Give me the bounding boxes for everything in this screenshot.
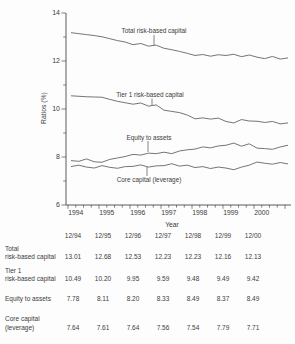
row-label-line: (leverage) — [5, 324, 58, 333]
cell-value: 12.23 — [178, 253, 208, 262]
series-annotation-label: Total risk-based capital — [121, 27, 186, 35]
cell-value: 7.64 — [58, 324, 88, 333]
series-annotation-label: Core capital (leverage) — [117, 176, 182, 184]
series-line — [71, 96, 288, 124]
x-tick-label: 1998 — [192, 209, 207, 216]
row-label: Core capital(leverage) — [5, 315, 58, 332]
cell-value: 10.49 — [58, 275, 88, 284]
y-tick-label: 14 — [52, 9, 60, 16]
cell-value: 12.23 — [148, 253, 178, 262]
row-label: Totalrisk-based capital — [5, 245, 58, 262]
cell-value: 8.49 — [238, 295, 268, 304]
cell-value: 10.20 — [88, 275, 118, 284]
table-row: Totalrisk-based capital13.0112.6812.5312… — [5, 245, 283, 262]
cell-value: 12.16 — [208, 253, 238, 262]
row-label: Tier 1risk-based capital — [5, 267, 58, 284]
table-header-row: 12/9412/9512/9612/9712/9812/9912/00 — [5, 232, 283, 241]
table-col-header: 12/00 — [238, 232, 268, 241]
x-tick-label: 1994 — [68, 209, 83, 216]
y-tick-label: 12 — [52, 57, 60, 64]
table-col-header: 12/97 — [148, 232, 178, 241]
x-tick-label: 1995 — [99, 209, 114, 216]
series-line — [71, 162, 288, 170]
row-label-line: Tier 1 — [5, 267, 58, 276]
cell-value: 7.56 — [148, 324, 178, 333]
cell-value: 9.95 — [118, 275, 148, 284]
series-line — [71, 33, 288, 59]
cell-value: 9.42 — [238, 275, 268, 284]
cell-value: 13.01 — [58, 253, 88, 262]
cell-value: 12.53 — [118, 253, 148, 262]
row-label-line: Equity to assets — [5, 295, 58, 304]
capital-ratios-figure: 141210861994199519961997199819992000Year… — [0, 0, 295, 344]
row-label-line: risk-based capital — [5, 275, 58, 284]
table-col-header: 12/95 — [88, 232, 118, 241]
cell-value: 7.79 — [208, 324, 238, 333]
table-col-header: 12/99 — [208, 232, 238, 241]
x-tick-label: 1997 — [161, 209, 176, 216]
row-label: Equity to assets — [5, 295, 58, 304]
cell-value: 8.33 — [148, 295, 178, 304]
cell-value: 12.13 — [238, 253, 268, 262]
cell-value: 8.49 — [178, 295, 208, 304]
cell-value: 12.68 — [88, 253, 118, 262]
series-annotation-label: Tier 1 risk-based capital — [116, 91, 184, 99]
cell-value: 8.20 — [118, 295, 148, 304]
table-row: Equity to assets7.788.118.208.338.498.37… — [5, 295, 283, 304]
cell-value: 7.54 — [178, 324, 208, 333]
row-label-line: Core capital — [5, 315, 58, 324]
cell-value: 8.37 — [208, 295, 238, 304]
x-tick-label: 1999 — [223, 209, 238, 216]
x-axis-title: Year — [165, 221, 179, 228]
series-annotation-label: Equity to assets — [126, 134, 171, 142]
y-axis-title: Ratios (%) — [40, 92, 48, 124]
capital-ratios-line-chart: 141210861994199519961997199819992000Year… — [0, 0, 295, 232]
cell-value: 7.64 — [118, 324, 148, 333]
row-label-line: Total — [5, 245, 58, 254]
cell-value: 8.11 — [88, 295, 118, 304]
x-tick-label: 1996 — [130, 209, 145, 216]
row-label-line: risk-based capital — [5, 253, 58, 262]
cell-value: 7.71 — [238, 324, 268, 333]
capital-ratios-data-table: 12/9412/9512/9612/9712/9812/9912/00Total… — [5, 232, 283, 332]
table-col-header: 12/96 — [118, 232, 148, 241]
series-line — [71, 143, 288, 162]
y-tick-label: 10 — [52, 105, 60, 112]
cell-value: 9.59 — [148, 275, 178, 284]
table-row: Core capital(leverage)7.647.617.647.567.… — [5, 315, 283, 332]
table-col-header: 12/98 — [178, 232, 208, 241]
table-row: Tier 1risk-based capital10.4910.209.959.… — [5, 267, 283, 284]
y-tick-label: 6 — [56, 201, 60, 208]
cell-value: 9.48 — [178, 275, 208, 284]
cell-value: 7.78 — [58, 295, 88, 304]
y-tick-label: 8 — [56, 153, 60, 160]
table-col-header: 12/94 — [58, 232, 88, 241]
cell-value: 7.61 — [88, 324, 118, 333]
x-tick-label: 2000 — [254, 209, 269, 216]
cell-value: 9.49 — [208, 275, 238, 284]
